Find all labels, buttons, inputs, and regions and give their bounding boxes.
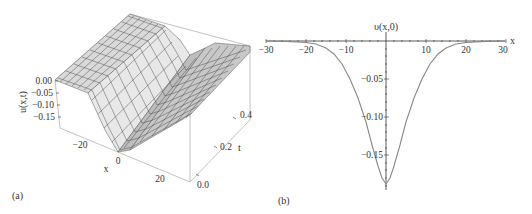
x-axis-label: x	[510, 35, 515, 46]
x-axis-label: x	[104, 163, 109, 174]
panel-a-surface-plot: 0.00 −0.05 −0.10 −0.15 u(x,t) −20 0 20 x…	[12, 14, 252, 202]
plot-title: υ(x,0)	[374, 21, 398, 33]
x-tick-label: 0	[116, 156, 121, 166]
t-tick-label: 0.0	[197, 180, 209, 190]
x-tick-label: −30	[259, 45, 274, 55]
panel-b-label: (b)	[278, 195, 290, 207]
z-tick-label: −0.05	[31, 88, 53, 98]
z-axis-label: u(x,t)	[17, 91, 29, 113]
t-tick-label: 0.4	[240, 110, 252, 120]
x-tick-label: −10	[339, 45, 354, 55]
y-tick-label: −0.15	[361, 150, 383, 160]
figure: 0.00 −0.05 −0.10 −0.15 u(x,t) −20 0 20 x…	[0, 0, 532, 214]
x-tick-label: 20	[461, 45, 471, 55]
z-tick-label: −0.15	[33, 112, 55, 122]
x-tick-label: 30	[498, 45, 508, 55]
y-tick-label: −0.05	[361, 74, 383, 84]
z-tick-label: 0.00	[35, 76, 52, 86]
x-tick-label: −20	[73, 140, 88, 150]
panel-a-label: (a)	[12, 190, 23, 202]
y-ticks	[384, 49, 389, 186]
panel-b-line-plot: −30 −20 −10 10 20 30 x −0.05 −0.10 −0.15…	[259, 21, 515, 207]
t-axis-label: t	[238, 142, 241, 153]
y-tick-label: −0.10	[361, 112, 383, 122]
x-tick-label: 20	[155, 174, 165, 184]
t-tick-label: 0.2	[220, 142, 232, 152]
z-tick-label: −0.10	[32, 100, 54, 110]
x-tick-label: −20	[299, 45, 314, 55]
x-tick-label: 10	[421, 45, 431, 55]
